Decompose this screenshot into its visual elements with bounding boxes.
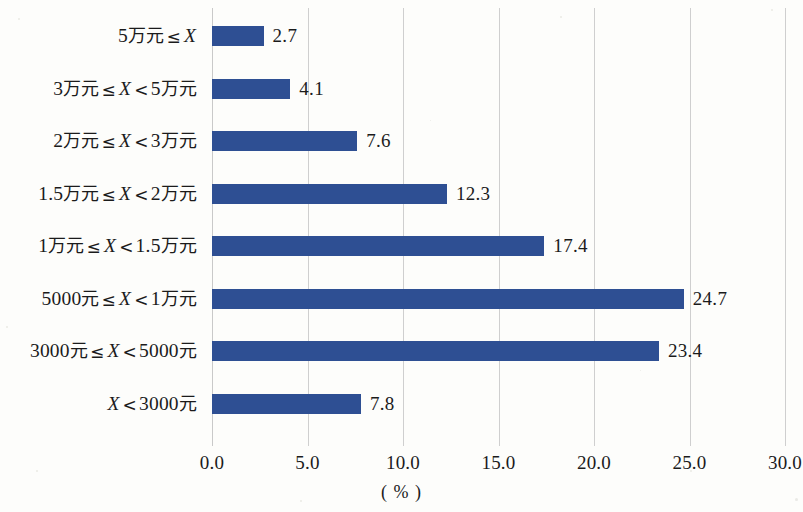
x-tick-10.0: 10.0 [386,452,420,474]
bar-value-label: 2.7 [273,25,298,47]
x-tick-5.0: 5.0 [295,452,319,474]
bar [212,289,684,309]
bar-row: X<3000元7.8 [0,378,803,430]
bar-row: 3000元≤X<5000元23.4 [0,325,803,377]
x-axis-title: ( % ) [0,482,803,503]
bar-track [212,184,447,204]
scan-speckle [36,470,38,472]
bar-value-label: 17.4 [553,235,587,257]
bar-value-label: 7.8 [370,393,395,415]
category-label: X<3000元 [106,394,197,414]
bar [212,79,290,99]
bar-value-label: 12.3 [456,183,490,205]
x-tick-20.0: 20.0 [577,452,611,474]
bar-track [212,79,290,99]
bar-track [212,341,659,361]
x-tick-25.0: 25.0 [672,452,706,474]
category-label: 5000元≤X<1万元 [42,289,197,309]
bar [212,184,447,204]
bar-value-label: 7.6 [366,130,391,152]
bar-value-label: 24.7 [693,288,727,310]
bar-chart: 5万元≤X2.73万元≤X<5万元4.12万元≤X<3万元7.61.5万元≤X<… [0,0,803,512]
category-label: 3000元≤X<5000元 [30,341,197,361]
category-label: 5万元≤X [118,26,197,46]
bar-row: 1.5万元≤X<2万元12.3 [0,168,803,220]
bar-row: 3万元≤X<5万元4.1 [0,63,803,115]
bar [212,394,361,414]
category-label: 2万元≤X<3万元 [53,131,197,151]
category-label: 1万元≤X<1.5万元 [38,236,197,256]
bar [212,341,659,361]
bar-track [212,236,544,256]
x-tick-30.0: 30.0 [768,452,802,474]
bar-row: 5000元≤X<1万元24.7 [0,273,803,325]
x-tick-0.0: 0.0 [200,452,224,474]
bar-value-label: 4.1 [299,78,324,100]
bar-row: 5万元≤X2.7 [0,10,803,62]
bar [212,26,264,46]
bar-row: 2万元≤X<3万元7.6 [0,115,803,167]
bar-track [212,26,264,46]
bar-track [212,394,361,414]
bar [212,131,357,151]
category-label: 3万元≤X<5万元 [53,79,197,99]
bar-row: 1万元≤X<1.5万元17.4 [0,220,803,272]
bar-track [212,289,684,309]
bar-value-label: 23.4 [668,340,702,362]
x-tick-15.0: 15.0 [481,452,515,474]
category-label: 1.5万元≤X<2万元 [38,184,197,204]
bar-track [212,131,357,151]
bar [212,236,544,256]
